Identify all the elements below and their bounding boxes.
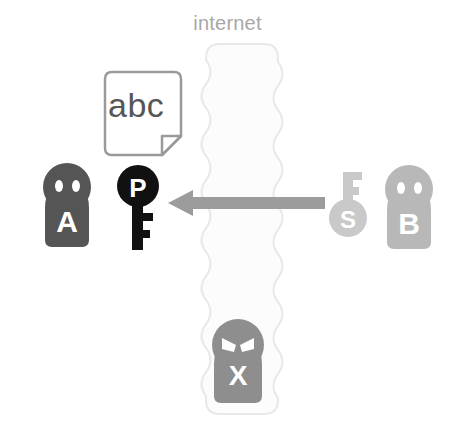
actor-attacker-label: X [213,360,263,392]
diagram-canvas: internet abc A P [0,0,455,440]
